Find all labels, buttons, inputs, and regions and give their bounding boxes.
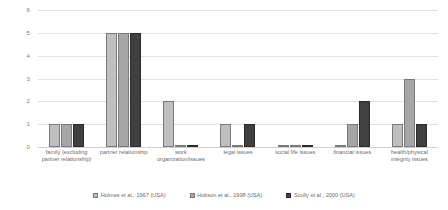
bar <box>290 145 301 147</box>
bar <box>220 124 231 147</box>
y-tick-label-0: 0 <box>27 144 30 150</box>
legend-swatch-icon <box>286 193 291 198</box>
bar <box>278 145 289 147</box>
bar <box>187 145 198 147</box>
x-axis-category-label: work organization/issues <box>152 149 209 187</box>
legend-item[interactable]: Hobson et al., 1998 (USA) <box>190 192 263 198</box>
bar <box>106 33 117 147</box>
bar <box>392 124 403 147</box>
bar <box>359 101 370 147</box>
x-axis-category-label: health/physical integrity issues <box>381 149 438 187</box>
x-axis-category-label: family (excluding partner relationship) <box>38 149 95 187</box>
bar <box>61 124 72 147</box>
bar <box>130 33 141 147</box>
gridline-0 <box>38 147 438 148</box>
y-tick-label-1: 1 <box>27 121 30 127</box>
plot-area <box>38 10 438 147</box>
y-tick-label-3: 3 <box>27 75 30 81</box>
y-tick-label-4: 4 <box>27 53 30 59</box>
bar <box>335 145 346 147</box>
x-axis-category-label: financial issues <box>324 149 381 187</box>
legend-item[interactable]: Scully et al., 2000 (USA) <box>286 192 354 198</box>
bar <box>244 124 255 147</box>
bar-chart: 6543210 family (excluding partner relati… <box>0 0 448 210</box>
x-axis-category-labels: family (excluding partner relationship)p… <box>38 149 438 187</box>
bar-group <box>209 10 266 147</box>
x-axis-category-label: legal issues <box>209 149 266 187</box>
legend-item[interactable]: Holmes et al., 1967 (USA) <box>93 192 165 198</box>
legend-label: Scully et al., 2000 (USA) <box>294 192 355 198</box>
bar <box>163 101 174 147</box>
legend: Holmes et al., 1967 (USA)Hobson et al., … <box>0 192 448 198</box>
legend-swatch-icon <box>93 193 98 198</box>
bar-group <box>152 10 209 147</box>
legend-label: Holmes et al., 1967 (USA) <box>101 192 166 198</box>
bar <box>118 33 129 147</box>
bar <box>416 124 427 147</box>
y-axis: 6543210 <box>0 10 36 147</box>
bar <box>347 124 358 147</box>
bar-group <box>267 10 324 147</box>
bar-group <box>38 10 95 147</box>
bar <box>302 145 313 147</box>
legend-swatch-icon <box>190 193 195 198</box>
bar <box>232 145 243 147</box>
legend-label: Hobson et al., 1998 (USA) <box>197 192 262 198</box>
y-tick-label-2: 2 <box>27 98 30 104</box>
x-axis-category-label: partner relationship <box>95 149 152 187</box>
y-tick-label-6: 6 <box>27 7 30 13</box>
bar-group <box>95 10 152 147</box>
bar-group <box>381 10 438 147</box>
bar-groups <box>38 10 438 147</box>
x-axis-category-label: social life issues <box>267 149 324 187</box>
y-tick-label-5: 5 <box>27 30 30 36</box>
bar-group <box>324 10 381 147</box>
bar <box>73 124 84 147</box>
bar <box>175 145 186 147</box>
bar <box>404 79 415 148</box>
bar <box>49 124 60 147</box>
